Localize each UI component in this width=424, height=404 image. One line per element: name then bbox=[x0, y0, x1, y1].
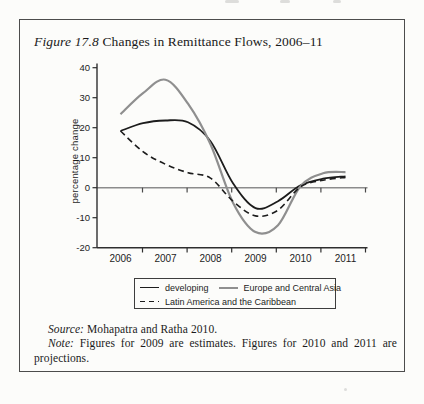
y-tick-label: 10 bbox=[79, 152, 90, 163]
source-text: Mohapatra and Ratha 2010. bbox=[84, 323, 217, 335]
legend-row-2: Latin America and the Caribbean bbox=[135, 295, 335, 308]
figure-number: Figure 17.8 bbox=[34, 34, 99, 49]
y-tick-label: 30 bbox=[79, 92, 90, 103]
source-label: Source: bbox=[48, 323, 84, 335]
note-label: Note: bbox=[48, 337, 74, 349]
y-axis-label: percentage change bbox=[69, 119, 80, 204]
legend-label-latin-america: Latin America and the Caribbean bbox=[165, 297, 296, 307]
x-tick-label: 2007 bbox=[154, 253, 177, 264]
figure-title-text: Changes in Remittance Flows, 2006–11 bbox=[99, 34, 323, 49]
legend-line-sample-europe-central-asia bbox=[219, 287, 238, 289]
x-tick-label: 2011 bbox=[335, 253, 357, 264]
y-tick-label: 20 bbox=[79, 122, 90, 133]
y-tick-label: 40 bbox=[79, 62, 90, 73]
x-tick-label: 2009 bbox=[244, 253, 267, 264]
y-tick-label: -10 bbox=[76, 212, 90, 223]
y-tick-label: 0 bbox=[85, 182, 90, 193]
x-tick-label: 2008 bbox=[199, 253, 222, 264]
chart-legend: developing Europe and Central Asia Latin… bbox=[134, 278, 336, 309]
note-text-1: Figures for 2009 are estimates. Figures … bbox=[74, 337, 397, 349]
scan-artifact bbox=[344, 388, 347, 391]
figure-title: Figure 17.8 Changes in Remittance Flows,… bbox=[34, 33, 394, 50]
legend-row-1: developing Europe and Central Asia bbox=[135, 281, 335, 294]
figure-frame: Figure 17.8 Changes in Remittance Flows,… bbox=[19, 19, 405, 372]
note-line-2: projections. bbox=[34, 351, 397, 365]
note-line-1: Note: Figures for 2009 are estimates. Fi… bbox=[34, 336, 397, 350]
legend-label-developing: developing bbox=[165, 283, 209, 293]
legend-line-sample-latin-america bbox=[140, 301, 159, 303]
legend-label-europe-central-asia: Europe and Central Asia bbox=[244, 283, 342, 293]
x-tick-label: 2010 bbox=[289, 253, 312, 264]
y-tick-label: -20 bbox=[76, 242, 90, 253]
series-line-developing bbox=[121, 120, 346, 209]
remittance-line-chart: 403020100-10-20200620072008200920102011 bbox=[56, 56, 381, 271]
series-line-europe-and-central-asia bbox=[121, 79, 346, 233]
source-line: Source: Mohapatra and Ratha 2010. bbox=[34, 322, 397, 336]
chart-plot-area: 403020100-10-20200620072008200920102011 bbox=[56, 56, 381, 271]
scan-artifact bbox=[280, 0, 290, 3]
legend-line-sample-developing bbox=[140, 287, 159, 288]
x-tick-label: 2006 bbox=[109, 253, 132, 264]
figure-notes: Source: Mohapatra and Ratha 2010. Note: … bbox=[34, 322, 397, 365]
scan-artifact bbox=[333, 0, 341, 3]
scanned-book-page: Figure 17.8 Changes in Remittance Flows,… bbox=[0, 0, 424, 404]
scan-artifact bbox=[225, 0, 239, 3]
